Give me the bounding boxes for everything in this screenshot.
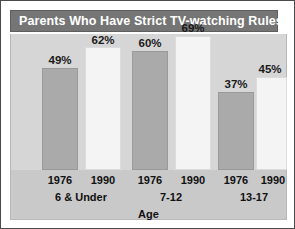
tick-label-7to12-1976: 1976 [126, 174, 174, 186]
bar-13to17-1976 [218, 92, 254, 170]
axis-band: 1976 1990 6 & Under 1976 1990 7-12 1976 … [11, 170, 286, 219]
bar-label-7to12-1976: 60% [132, 37, 168, 49]
plot-area: 49% 62% 60% 69% 37% 45% [11, 34, 286, 170]
plot-frame: 49% 62% 60% 69% 37% 45% 1976 1990 6 & Un… [10, 34, 287, 220]
x-axis-title: Age [11, 208, 286, 220]
group-label-13to17: 13-17 [206, 191, 295, 203]
bar-13to17-1990 [256, 77, 287, 170]
bar-6under-1976 [42, 68, 78, 170]
group-label-6under: 6 & Under [33, 191, 129, 203]
tick-label-6under-1990: 1990 [79, 174, 127, 186]
bar-6under-1990 [85, 47, 121, 170]
chart-title: Parents Who Have Strict TV-watching Rule… [19, 14, 283, 28]
bar-label-6under-1976: 49% [42, 54, 78, 66]
chart-title-bar: Parents Who Have Strict TV-watching Rule… [10, 10, 278, 32]
bar-label-13to17-1990: 45% [252, 63, 288, 75]
tick-label-7to12-1990: 1990 [169, 174, 217, 186]
group-label-7to12: 7-12 [123, 191, 219, 203]
bar-label-7to12-1990: 69% [175, 22, 211, 34]
bar-label-13to17-1976: 37% [218, 78, 254, 90]
bar-label-6under-1990: 62% [85, 34, 121, 46]
tick-label-13to17-1990: 1990 [249, 174, 295, 186]
bar-7to12-1976 [132, 51, 168, 170]
bar-7to12-1990 [175, 36, 211, 170]
chart-figure: Parents Who Have Strict TV-watching Rule… [0, 0, 295, 229]
tick-label-6under-1976: 1976 [36, 174, 84, 186]
